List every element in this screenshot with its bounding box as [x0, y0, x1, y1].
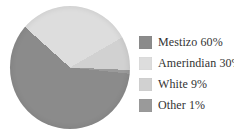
- legend-swatch-amerindian: [139, 57, 152, 70]
- pie-chart: [10, 6, 130, 129]
- legend-item-white: White 9%: [139, 78, 234, 91]
- legend-item-other: Other 1%: [139, 99, 234, 112]
- legend-label-white: White 9%: [158, 78, 207, 91]
- legend-item-amerindian: Amerindian 30%: [139, 57, 234, 70]
- legend-swatch-other: [139, 99, 152, 112]
- legend-swatch-white: [139, 78, 152, 91]
- pie-chart-figure: Mestizo 60%Amerindian 30%White 9%Other 1…: [0, 0, 234, 136]
- legend: Mestizo 60%Amerindian 30%White 9%Other 1…: [139, 36, 234, 120]
- legend-item-mestizo: Mestizo 60%: [139, 36, 234, 49]
- legend-label-mestizo: Mestizo 60%: [158, 36, 223, 49]
- legend-swatch-mestizo: [139, 36, 152, 49]
- legend-label-other: Other 1%: [158, 99, 205, 112]
- legend-label-amerindian: Amerindian 30%: [158, 57, 234, 70]
